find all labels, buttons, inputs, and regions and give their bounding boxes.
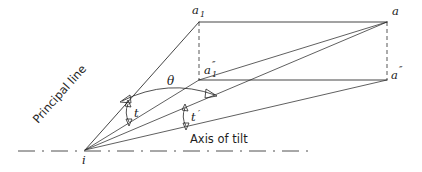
label-a1dprime-base: a	[204, 63, 211, 77]
geometry-diagram-svg: a 1 a a 1 ″ a ″ i θ t t ′ Principal line	[0, 0, 422, 172]
angle-arc-t-prime	[182, 104, 189, 130]
label-adprime-primemark: ″	[399, 64, 403, 75]
label-i: i	[82, 153, 86, 167]
label-a1-doubleprime: a 1 ″	[204, 59, 217, 79]
label-a1-subscript: 1	[200, 10, 205, 19]
label-theta: θ	[167, 74, 175, 88]
label-a1dprime-subscript: 1	[212, 70, 217, 79]
t-arrowhead-top	[125, 100, 131, 107]
label-a: a	[392, 4, 399, 18]
label-a-doubleprime: a ″	[391, 64, 403, 82]
label-t-prime: t ′	[191, 108, 201, 124]
figure-root: a 1 a a 1 ″ a ″ i θ t t ′ Principal line	[0, 0, 422, 172]
ray-i-to-a1	[85, 22, 199, 150]
angle-arc-theta	[120, 88, 217, 103]
diagonal-a1dprime-to-a	[199, 22, 387, 80]
label-a1-base: a	[192, 3, 199, 17]
rays-from-vertex-i	[85, 22, 387, 150]
label-t-prime-mark: ′	[198, 108, 201, 119]
label-a1dprime-primemark: ″	[212, 59, 216, 70]
label-t: t	[134, 106, 139, 120]
angle-arc-t	[125, 100, 132, 126]
label-axis-of-tilt: Axis of tilt	[190, 132, 248, 146]
rectangle-a1-a-adprime-a1dprime	[199, 22, 387, 80]
label-t-prime-base: t	[191, 110, 196, 124]
t-arrowhead-bottom	[126, 119, 132, 126]
label-a1: a 1	[192, 3, 205, 19]
label-principal-line: Principal line	[30, 62, 89, 126]
ray-i-to-a1-doubleprime	[85, 80, 199, 150]
ray-i-to-a	[85, 22, 387, 150]
label-adprime-base: a	[391, 68, 398, 82]
